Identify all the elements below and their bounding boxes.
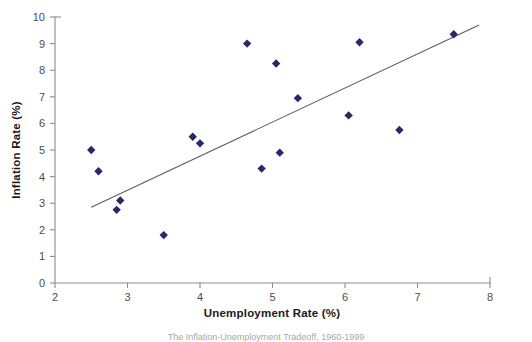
data-point: [196, 139, 204, 147]
x-tick-label: 7: [414, 291, 420, 303]
x-axis-ticks: 2345678: [52, 283, 493, 303]
y-axis-ticks: 012345678910: [33, 11, 55, 289]
data-point: [116, 196, 124, 204]
x-tick-label: 4: [197, 291, 203, 303]
x-axis-title: Unemployment Rate (%): [204, 307, 340, 319]
data-point: [112, 206, 120, 214]
figure-caption-clip: The Inflation-Unemployment Tradeoff, 196…: [0, 332, 532, 342]
y-tick-label: 10: [33, 11, 45, 23]
y-tick-label: 1: [39, 250, 45, 262]
data-point: [189, 133, 197, 141]
y-tick-label: 6: [39, 117, 45, 129]
data-point: [294, 94, 302, 102]
data-point: [276, 148, 284, 156]
data-point: [94, 167, 102, 175]
y-tick-label: 0: [39, 277, 45, 289]
y-tick-label: 3: [39, 197, 45, 209]
y-tick-label: 5: [39, 144, 45, 156]
data-point: [395, 126, 403, 134]
y-tick-label: 2: [39, 224, 45, 236]
x-tick-label: 3: [124, 291, 130, 303]
x-tick-label: 6: [342, 291, 348, 303]
data-point: [355, 38, 363, 46]
figure-caption: The Inflation-Unemployment Tradeoff, 196…: [0, 332, 532, 342]
scatter-chart: 012345678910 2345678 Unemployment Rate (…: [0, 0, 532, 342]
data-point: [87, 146, 95, 154]
y-tick-label: 9: [39, 38, 45, 50]
x-tick-label: 5: [269, 291, 275, 303]
data-point: [160, 231, 168, 239]
data-point: [344, 111, 352, 119]
x-tick-label: 8: [487, 291, 493, 303]
x-tick-label: 2: [52, 291, 58, 303]
data-point: [243, 39, 251, 47]
trend-line: [91, 25, 479, 207]
y-axis-title: Inflation Rate (%): [10, 101, 22, 199]
y-tick-label: 7: [39, 91, 45, 103]
data-point: [257, 164, 265, 172]
data-point: [272, 59, 280, 67]
chart-canvas: 012345678910 2345678 Unemployment Rate (…: [0, 0, 532, 342]
y-tick-label: 8: [39, 64, 45, 76]
y-tick-label: 4: [39, 171, 45, 183]
data-point: [450, 30, 458, 38]
